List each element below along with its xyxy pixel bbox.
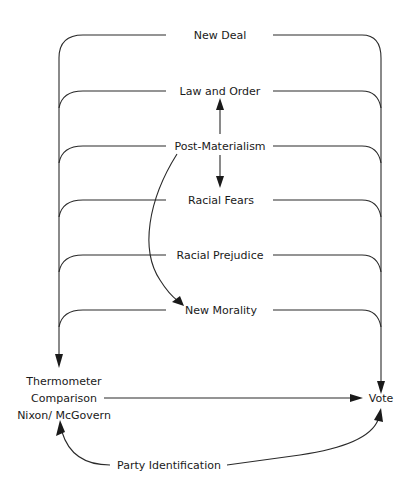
node-post-materialism: Post-Materialism bbox=[174, 140, 265, 153]
node-new-morality: New Morality bbox=[185, 304, 257, 317]
node-party-identification: Party Identification bbox=[117, 459, 221, 472]
arrowhead-to-thermometer bbox=[55, 354, 63, 368]
node-vote: Vote bbox=[369, 392, 394, 405]
arrowhead-down bbox=[216, 176, 224, 188]
arrow-postmat-to-newmorality bbox=[149, 154, 178, 301]
left-brackets bbox=[59, 35, 166, 327]
arrow-partyid-to-thermometer bbox=[62, 432, 110, 465]
arrowhead-up bbox=[216, 98, 224, 110]
arrowhead-right bbox=[350, 394, 363, 402]
node-thermometer-line2: Comparison bbox=[31, 392, 97, 405]
right-brackets bbox=[273, 35, 381, 327]
node-new-deal: New Deal bbox=[194, 29, 247, 42]
arrowhead-up-left bbox=[56, 420, 65, 436]
node-racial-fears: Racial Fears bbox=[188, 194, 254, 207]
node-thermometer-line3: Nixon/ McGovern bbox=[17, 409, 111, 422]
node-thermometer-line1: Thermometer bbox=[25, 375, 102, 388]
arrowhead-up-right bbox=[374, 408, 383, 422]
arrow-partyid-to-vote bbox=[227, 420, 378, 465]
path-diagram: New Deal Law and Order Post-Materialism … bbox=[0, 0, 413, 491]
node-racial-prejudice: Racial Prejudice bbox=[177, 249, 264, 262]
node-law-and-order: Law and Order bbox=[180, 85, 261, 98]
